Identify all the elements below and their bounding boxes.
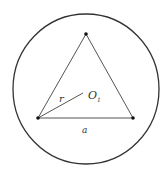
outer-circle [13, 14, 159, 164]
center-subscript: 1 [97, 96, 101, 103]
inscribed-triangle-diagram: r O 1 a [0, 0, 167, 177]
vertex-bottom-right [131, 116, 135, 120]
center-label: O [88, 89, 97, 102]
vertex-bottom-left [36, 116, 40, 120]
side-label: a [82, 125, 87, 135]
radius-label: r [59, 93, 65, 104]
vertex-top [84, 32, 88, 36]
equilateral-triangle [38, 34, 133, 118]
